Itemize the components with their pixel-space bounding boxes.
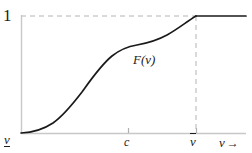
x-axis-title-text: v [219, 135, 225, 150]
x-axis-label-v-lower-text: v [4, 133, 10, 147]
right-arrow-icon: → [225, 136, 239, 150]
x-axis-label-c: c [124, 136, 129, 148]
curve-label-f-of-v: F(v) [133, 53, 155, 66]
x-axis-label-v-lower: v [4, 133, 10, 147]
x-axis-label-v-upper-text: v [190, 133, 196, 148]
curve-label-prefix: F( [133, 52, 145, 67]
plot-canvas [0, 0, 252, 153]
y-axis-max-label: 1 [3, 7, 12, 24]
curve-label-suffix: ) [151, 52, 155, 67]
cdf-curve [21, 16, 196, 133]
x-axis-title: v→ [219, 136, 239, 149]
cdf-figure: 1 v c v v→ F(v) [0, 0, 252, 153]
x-axis-label-v-upper: v [190, 133, 196, 148]
